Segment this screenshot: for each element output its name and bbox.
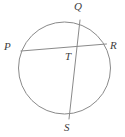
vertex-label-p: P (4, 41, 11, 52)
geometry-diagram (0, 0, 125, 137)
vertex-label-q: Q (74, 1, 82, 12)
vertex-label-r: R (110, 40, 117, 51)
intersection-label-t: T (65, 51, 71, 62)
vertex-label-s: S (64, 122, 70, 133)
